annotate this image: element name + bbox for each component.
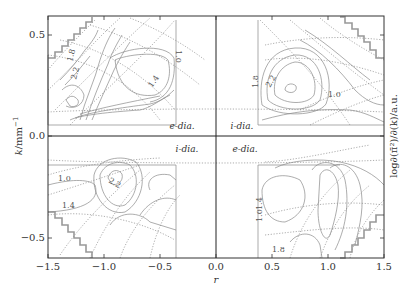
svg-text:0.5: 0.5 [264,261,280,272]
svg-text:−0.5: −0.5 [21,232,45,243]
contours-bottom-right [262,160,384,258]
svg-text:−1.5: −1.5 [36,261,60,272]
svg-text:0.0: 0.0 [208,261,224,272]
svg-text:0.5: 0.5 [29,29,45,40]
svg-text:2.2: 2.2 [107,176,123,190]
x-axis-label: r [214,274,220,285]
svg-text:−0.5: −0.5 [148,261,172,272]
svg-text:1.0: 1.0 [320,261,336,272]
svg-text:1.0: 1.0 [174,50,183,63]
y-tick-labels: 0.5 0.0 −0.5 [21,29,45,243]
contours-top-right [261,30,384,122]
quadrant-label-bottom-right: e-dia. [232,144,257,154]
svg-text:1.0: 1.0 [58,174,71,183]
svg-text:2.2: 2.2 [69,66,81,81]
svg-text:1.0: 1.0 [255,209,264,222]
svg-text:1.4: 1.4 [62,201,75,210]
svg-text:1.4: 1.4 [255,197,264,210]
svg-text:0.0: 0.0 [29,130,45,141]
svg-text:1.0: 1.0 [328,90,341,99]
svg-text:1.5: 1.5 [376,261,392,272]
svg-text:2.2: 2.2 [264,73,278,89]
quadrant-label-top-right: i-dia. [231,121,254,131]
right-axis-label: log∂(π̄²)/∂(k)/a.u. [388,94,399,178]
svg-text:1.8: 1.8 [272,245,285,254]
svg-text:1.4: 1.4 [146,74,161,90]
contours-bottom-left [48,158,176,230]
x-tick-labels: −1.5 −1.0 −0.5 0.0 0.5 1.0 1.5 [36,261,392,272]
svg-text:1.8: 1.8 [65,48,77,63]
contour-chart: −1.5 −1.0 −0.5 0.0 0.5 1.0 1.5 r 0.5 0.0… [0,0,415,290]
svg-text:1.8: 1.8 [251,75,260,88]
quadrant-label-top-left: e-dia. [169,121,194,131]
y-axis-label: k/mm−1 [12,117,24,156]
contour-labels: 1.0 1.4 1.8 2.2 1.0 1.8 2.2 1.0 1.4 2.2 … [58,48,341,254]
svg-text:−1.0: −1.0 [92,261,116,272]
quadrant-label-bottom-left: i-dia. [176,144,199,154]
